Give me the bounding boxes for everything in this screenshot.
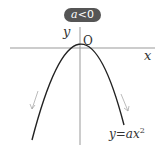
eq-equals: =	[116, 127, 126, 141]
eq-coef: a	[126, 127, 133, 141]
left-arrow-icon	[30, 91, 38, 109]
origin-label: O	[83, 34, 93, 48]
right-arrow-icon	[121, 94, 129, 111]
x-axis-label: x	[144, 48, 152, 63]
parabola-curve	[32, 44, 124, 140]
curve-equation-label: y=ax2	[108, 126, 145, 141]
eq-exponent: 2	[140, 126, 145, 135]
y-axis-label: y	[62, 24, 71, 39]
parabola-graph: y O x y=ax2	[0, 0, 163, 150]
